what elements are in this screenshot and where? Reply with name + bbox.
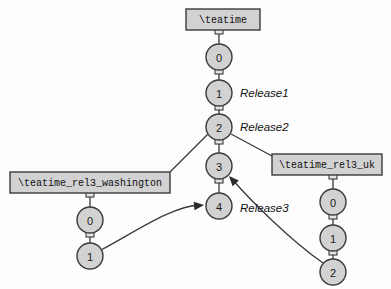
arrowhead-washington-1-to-trunk-4 xyxy=(194,201,205,210)
edge-branch-2-to-uk xyxy=(231,134,272,156)
edge-branch-2-to-washington xyxy=(170,134,208,172)
release-label-release2: Release2 xyxy=(240,121,289,133)
revision-node-label-trunk-2: 2 xyxy=(216,122,222,134)
revision-node-label-uk-0: 0 xyxy=(330,197,336,209)
release-label-release1: Release1 xyxy=(240,87,289,99)
branch-diagram: \teatime01234\teatime_rel3_washington01\… xyxy=(0,0,391,289)
branch-box-label-trunk: \teatime xyxy=(199,15,247,26)
merge-edge-uk-2-to-trunk-3 xyxy=(232,179,323,263)
revision-node-label-uk-2: 2 xyxy=(330,267,336,279)
revision-node-label-washington-0: 0 xyxy=(87,215,93,227)
branch-box-label-washington: \teatime_rel3_washington xyxy=(18,178,162,189)
revision-node-label-washington-1: 1 xyxy=(87,251,93,263)
revision-node-label-uk-1: 1 xyxy=(330,233,336,245)
release-label-release3: Release3 xyxy=(240,202,289,214)
merge-edge-washington-1-to-trunk-4 xyxy=(101,205,200,250)
revision-node-label-trunk-4: 4 xyxy=(216,201,222,213)
revision-node-label-trunk-0: 0 xyxy=(216,52,222,64)
revision-node-label-trunk-1: 1 xyxy=(216,88,222,100)
branch-box-label-uk: \teatime_rel3_uk xyxy=(279,160,375,171)
revision-node-label-trunk-3: 3 xyxy=(216,161,222,173)
